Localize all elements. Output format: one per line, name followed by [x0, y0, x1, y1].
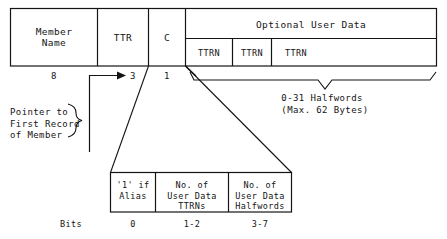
detail-label-user-data-halfwords: No. of User Data Halfwords [235, 180, 285, 212]
bits-range-user-data-halfwords: 3-7 [252, 219, 269, 230]
subcell-label-ttrn-2: TTRN [241, 48, 263, 59]
field-size-member-name: 8 [51, 71, 57, 82]
subcell-label-ttrn-1: TTRN [198, 48, 220, 59]
pointer-arrowhead [117, 72, 126, 80]
expansion-line-right [186, 66, 292, 173]
field-label-ttr: TTR [114, 32, 132, 43]
halfwords-brace [190, 72, 436, 89]
halfwords-note: 0-31 Halfwords (Max. 62 Bytes) [281, 93, 368, 116]
bits-range-alias-flag: 0 [130, 219, 136, 230]
bits-axis-label: Bits [60, 219, 82, 230]
pointer-arrow-line [90, 76, 118, 153]
pointer-to-first-record-note: Pointer to First Record of Member [10, 107, 80, 142]
pds-directory-entry-diagram: Member Name TTR C Optional User Data TTR… [0, 0, 447, 239]
detail-label-user-data-ttrns: No. of User Data TTRNs [167, 180, 217, 212]
subcell-label-ttrn-3: TTRN [285, 48, 307, 59]
field-label-c: C [164, 32, 170, 43]
field-size-c: 1 [164, 71, 170, 82]
field-label-member-name: Member Name [36, 26, 73, 48]
field-size-ttr: 3 [130, 71, 136, 82]
detail-label-alias-flag: '1' if Alias [116, 180, 149, 201]
bits-range-user-data-ttrns: 1-2 [184, 219, 201, 230]
main-record-outline [11, 9, 437, 67]
field-label-optional-user-data: Optional User Data [256, 19, 366, 30]
